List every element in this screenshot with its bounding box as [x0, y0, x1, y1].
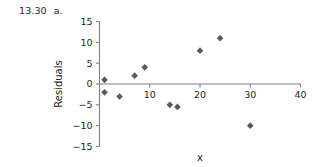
residual-plot-figure: 13.30a. −15−10−5051015 10203040 Residual… [0, 0, 314, 167]
plot-svg: −15−10−5051015 10203040 Residuals x [0, 0, 314, 167]
y-axis-tick-labels: −15−10−5051015 [72, 16, 92, 152]
data-point-marker [131, 72, 138, 79]
y-axis [96, 22, 100, 147]
data-point-marker [116, 93, 123, 100]
data-points [101, 35, 253, 129]
data-point-marker [217, 35, 224, 42]
y-tick-label: 0 [86, 78, 92, 89]
x-tick-label: 40 [294, 89, 306, 100]
data-point-marker [197, 47, 204, 54]
y-tick-label: 15 [80, 16, 92, 27]
data-point-marker [141, 64, 148, 71]
data-point-marker [167, 102, 174, 109]
scatter-plot: −15−10−5051015 10203040 Residuals x [0, 0, 314, 167]
data-point-marker [174, 104, 181, 111]
x-axis-title: x [197, 152, 203, 163]
x-tick-label: 10 [144, 89, 156, 100]
y-tick-label: 5 [86, 58, 92, 69]
x-axis-tick-labels: 10203040 [144, 89, 307, 100]
y-axis-title: Residuals [53, 60, 64, 107]
y-tick-label: −10 [72, 120, 92, 131]
y-tick-label: −15 [72, 141, 92, 152]
data-point-marker [101, 77, 108, 84]
data-point-marker [247, 122, 254, 129]
x-axis [100, 84, 301, 88]
x-tick-label: 20 [194, 89, 206, 100]
x-tick-label: 30 [244, 89, 256, 100]
data-point-marker [101, 89, 108, 96]
y-tick-label: 10 [80, 37, 92, 48]
y-tick-label: −5 [78, 99, 92, 110]
